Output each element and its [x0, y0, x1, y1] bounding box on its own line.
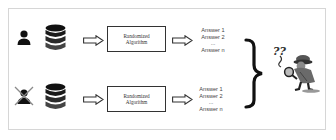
answer-item: Answer n [193, 106, 229, 113]
randomized-algorithm-box: Randomized Algorithm [107, 26, 166, 52]
person-icon [17, 30, 31, 45]
answer-ellipsis: ... [193, 99, 229, 106]
answer-item: Answer 2 [195, 34, 231, 41]
arrow-to-algorithm-icon [83, 94, 104, 105]
answers-list: Answer 1 Answer 2 ... Answer n [193, 86, 229, 112]
answer-item: Answer 1 [193, 86, 229, 93]
database-icon [45, 83, 66, 112]
database-icon [45, 24, 66, 53]
answer-ellipsis: ... [195, 40, 231, 47]
arrow-to-answers-icon [172, 35, 193, 46]
randomized-algorithm-box: Randomized Algorithm [107, 86, 166, 112]
person-crossed-out-icon [14, 86, 34, 106]
detective-with-question-marks-icon: ?? [272, 44, 322, 94]
question-marks: ?? [273, 45, 286, 58]
curly-brace-icon [244, 37, 266, 110]
answer-item: Answer 1 [195, 27, 231, 34]
algorithm-label-line2: Algorithm [126, 99, 148, 105]
answer-item: Answer 2 [193, 93, 229, 100]
algorithm-label-line2: Algorithm [126, 39, 148, 45]
answer-item: Answer n [195, 47, 231, 54]
arrow-to-algorithm-icon [83, 35, 104, 46]
answers-list: Answer 1 Answer 2 ... Answer n [195, 27, 231, 53]
arrow-to-answers-icon [172, 94, 193, 105]
